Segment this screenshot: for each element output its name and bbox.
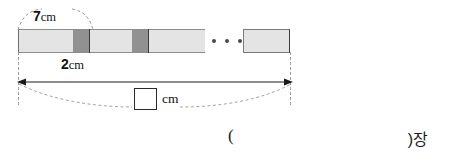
label-overlap-bottom: 2cm [61,56,84,72]
label-7-unit: cm [41,10,56,24]
figure-canvas: 7cm 2cm cm ( )장 [0,0,458,161]
label-2-unit: cm [69,58,84,72]
answer-unit-label: cm [162,91,179,107]
strip-segment-light-2 [90,29,132,53]
answer-entry-line[interactable]: ( )장 [228,126,428,152]
total-length-answer-group: cm [134,88,179,110]
strip-segment-overlap-1 [73,29,89,53]
ellipsis-dot [225,39,229,43]
horizontal-ellipsis-icon [212,33,242,49]
label-2-number: 2 [61,56,69,72]
ellipsis-dot [212,39,216,43]
strip-segment-light-1 [18,29,73,53]
strip-segment-overlap-2 [132,29,148,53]
answer-paren-close: )장 [408,126,428,150]
answer-input-box[interactable] [134,88,157,110]
ellipsis-dot [238,39,242,43]
strip-segment-light-3 [149,29,205,53]
label-7-number: 7 [33,8,41,24]
answer-paren-open: ( [228,126,234,146]
strip-segment-last [243,29,290,53]
paper-strip [18,29,290,53]
label-overlap-top: 7cm [33,8,56,24]
